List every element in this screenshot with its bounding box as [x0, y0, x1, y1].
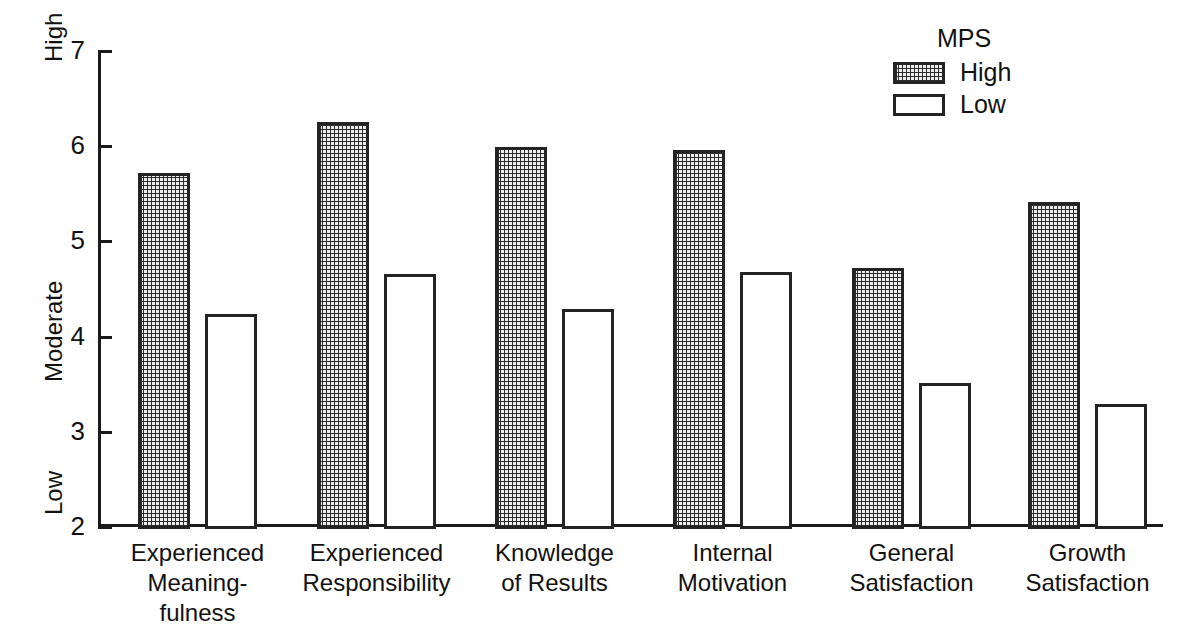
legend-item-high[interactable]: High: [893, 60, 1083, 85]
bar-low-group-6: [1095, 404, 1147, 529]
bar-low-group-1: [205, 314, 257, 529]
y-tick-2: [98, 526, 112, 529]
bar-low-group-2: [384, 274, 436, 529]
y-tick-6: [98, 145, 112, 148]
bar-high-group-1: [138, 173, 190, 529]
y-tick-7: [98, 50, 112, 53]
legend-swatch-high-icon: [893, 62, 945, 84]
bar-high-group-5: [852, 268, 904, 529]
bar-high-group-4: [673, 150, 725, 529]
y-tick-label-3: 3: [45, 418, 85, 444]
legend-swatch-low-icon: [893, 94, 945, 116]
legend-item-low[interactable]: Low: [893, 92, 1083, 117]
legend-title: MPS: [937, 26, 1083, 51]
bar-low-group-5: [919, 383, 971, 529]
legend: MPS High Low: [893, 26, 1083, 124]
y-tick-label-6: 6: [45, 132, 85, 158]
chart-figure: 234567 HighModerateLow Experienced Meani…: [0, 0, 1196, 639]
legend-label-low: Low: [960, 92, 1006, 117]
legend-label-high: High: [960, 60, 1011, 85]
bar-low-group-3: [562, 309, 614, 529]
y-tick-4: [98, 336, 112, 339]
y-tick-label-2: 2: [45, 513, 85, 539]
bar-high-group-6: [1028, 202, 1080, 529]
x-category-label-6: Growth Satisfaction: [978, 538, 1196, 598]
bar-high-group-2: [317, 122, 369, 529]
y-anchor-low: Low: [42, 471, 66, 515]
y-anchor-moderate: Moderate: [42, 281, 66, 382]
bar-high-group-3: [495, 147, 547, 529]
bar-low-group-4: [740, 272, 792, 529]
y-anchor-high: High: [42, 13, 66, 62]
y-tick-5: [98, 240, 112, 243]
y-tick-3: [98, 431, 112, 434]
y-tick-label-5: 5: [45, 227, 85, 253]
